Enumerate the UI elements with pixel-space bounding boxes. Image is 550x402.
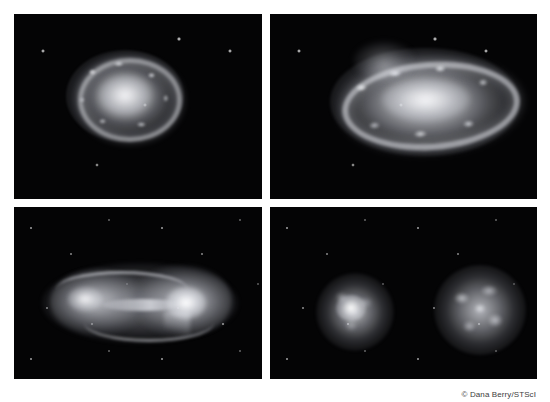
- galaxy-core: [98, 74, 152, 116]
- panel-bottom-left: [14, 207, 262, 379]
- panel-top-right: [270, 14, 537, 199]
- merger-left-core: [68, 287, 102, 311]
- panel-top-left: [14, 14, 262, 199]
- galaxy-core: [382, 78, 470, 120]
- merger-right-core: [166, 287, 206, 319]
- galaxy-right-mottling: [442, 273, 518, 347]
- galaxy-montage-figure: [14, 14, 537, 379]
- panel-bottom-right: [270, 207, 537, 379]
- image-credit: © Dana Berry/STScI: [462, 390, 536, 399]
- galaxy-left-core: [336, 295, 366, 321]
